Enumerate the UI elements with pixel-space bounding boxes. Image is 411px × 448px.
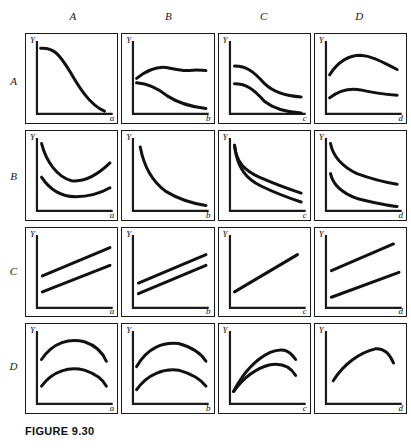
panel-a-b: Y b <box>121 33 214 124</box>
column-header-d: D <box>312 6 408 28</box>
plot-area <box>315 324 406 413</box>
figure-9-30: A B C D A B C D Y a Y b <box>0 0 411 448</box>
plot-area <box>219 228 310 317</box>
plot-area <box>122 228 213 317</box>
panel-grid: Y a Y b Y c Y <box>25 33 407 414</box>
column-header-a: A <box>25 6 121 28</box>
figure-caption: FIGURE 9.30 <box>25 425 94 437</box>
plot-area <box>26 34 117 123</box>
panel-d-d: Y d <box>314 323 407 414</box>
plot-area <box>219 34 310 123</box>
plot-area <box>122 131 213 220</box>
plot-area <box>315 228 406 317</box>
row-label-b: B <box>2 128 25 223</box>
row-label-c: C <box>2 224 25 319</box>
plot-area <box>122 324 213 413</box>
column-header-c: C <box>216 6 312 28</box>
panel-c-b: Y b <box>121 227 214 318</box>
plot-area <box>219 131 310 220</box>
plot-area <box>219 324 310 413</box>
column-header-row: A B C D <box>25 6 407 28</box>
panel-a-a: Y a <box>25 33 118 124</box>
panel-a-c: Y c <box>218 33 311 124</box>
row-label-column: A B C D <box>2 33 25 414</box>
panel-b-c: Y c <box>218 130 311 221</box>
column-header-b: B <box>121 6 217 28</box>
panel-b-d: Y d <box>314 130 407 221</box>
panel-c-d: Y d <box>314 227 407 318</box>
row-label-d: D <box>2 319 25 414</box>
plot-area <box>315 34 406 123</box>
panel-c-a: Y a <box>25 227 118 318</box>
row-label-a: A <box>2 33 25 128</box>
panel-d-a: Y a <box>25 323 118 414</box>
plot-area <box>26 324 117 413</box>
panel-d-c: Y c <box>218 323 311 414</box>
panel-b-a: Y a <box>25 130 118 221</box>
plot-area <box>315 131 406 220</box>
panel-c-c: Y c <box>218 227 311 318</box>
panel-a-d: Y d <box>314 33 407 124</box>
plot-area <box>122 34 213 123</box>
plot-area <box>26 228 117 317</box>
panel-b-b: Y b <box>121 130 214 221</box>
plot-area <box>26 131 117 220</box>
panel-d-b: Y b <box>121 323 214 414</box>
